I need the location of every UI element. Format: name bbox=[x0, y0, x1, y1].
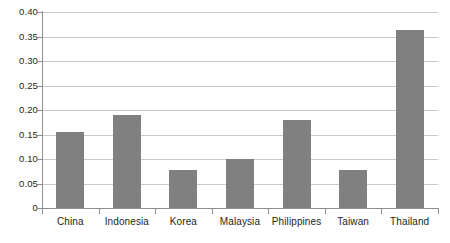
x-axis-tick-label-china: China bbox=[42, 216, 99, 227]
bar-chart: 00.050.100.150.200.250.300.350.40 ChinaI… bbox=[0, 0, 450, 243]
x-axis-tick-mark bbox=[42, 209, 43, 214]
y-axis-tick-label: 0.15 bbox=[0, 130, 38, 140]
y-axis-tick-label: 0.20 bbox=[0, 105, 38, 115]
x-axis-tick-mark bbox=[212, 209, 213, 214]
x-axis-tick-label-malaysia: Malaysia bbox=[212, 216, 269, 227]
bar-taiwan bbox=[339, 170, 367, 208]
x-axis-tick-mark bbox=[438, 209, 439, 214]
bar-indonesia bbox=[113, 115, 141, 208]
bar-malaysia bbox=[226, 159, 254, 208]
y-axis-labels: 00.050.100.150.200.250.300.350.40 bbox=[0, 0, 38, 243]
bar-korea bbox=[169, 170, 197, 208]
bar-slot bbox=[99, 12, 156, 208]
bar-slot bbox=[212, 12, 269, 208]
bar-slot bbox=[268, 12, 325, 208]
x-axis-tick-mark bbox=[99, 209, 100, 214]
x-axis-tick-label-taiwan: Taiwan bbox=[325, 216, 382, 227]
y-axis-tick-label: 0 bbox=[0, 203, 38, 213]
y-axis-tick-label: 0.35 bbox=[0, 32, 38, 42]
bar-slot bbox=[325, 12, 382, 208]
bar-philippines bbox=[283, 120, 311, 208]
x-axis-tick-mark bbox=[268, 209, 269, 214]
x-axis-tick-mark bbox=[381, 209, 382, 214]
x-axis-tick-label-indonesia: Indonesia bbox=[99, 216, 156, 227]
x-axis-tick-label-korea: Korea bbox=[155, 216, 212, 227]
x-axis-tick-label-philippines: Philippines bbox=[268, 216, 325, 227]
x-axis-tick-mark bbox=[155, 209, 156, 214]
bars-layer bbox=[42, 12, 438, 208]
x-axis-tick-mark bbox=[325, 209, 326, 214]
bar-slot bbox=[155, 12, 212, 208]
y-axis-tick-label: 0.40 bbox=[0, 7, 38, 17]
bar-china bbox=[56, 132, 84, 208]
y-axis-tick-label: 0.25 bbox=[0, 81, 38, 91]
y-axis-tick-label: 0.05 bbox=[0, 179, 38, 189]
x-axis-line bbox=[42, 208, 439, 209]
y-axis-tick-label: 0.10 bbox=[0, 154, 38, 164]
bar-slot bbox=[42, 12, 99, 208]
x-axis-tick-label-thailand: Thailand bbox=[381, 216, 438, 227]
bar-slot bbox=[381, 12, 438, 208]
bar-thailand bbox=[396, 30, 424, 208]
y-axis-tick-label: 0.30 bbox=[0, 56, 38, 66]
